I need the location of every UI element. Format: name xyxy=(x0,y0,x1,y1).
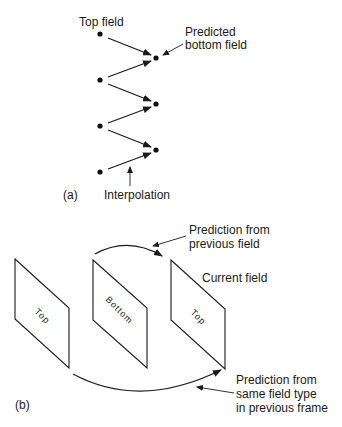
prev-frame-label-line3: in previous frame xyxy=(236,401,328,415)
current-field-label: Current field xyxy=(202,271,267,285)
figure-b: Prediction from previous field Top Botto… xyxy=(15,223,328,415)
prev-frame-arc-arrow xyxy=(73,370,221,391)
prev-field-pointer-arrow xyxy=(153,236,186,246)
bottom-field-dot xyxy=(153,55,158,60)
field-prediction-diagram: Top field Predicted bottom field (a) Int… xyxy=(0,0,342,427)
prev-field-arc-arrow xyxy=(95,245,162,256)
top-field-label: Top field xyxy=(79,15,124,29)
figure-a-label: (a) xyxy=(63,188,78,202)
interp-arrow xyxy=(108,84,151,101)
prev-frame-label-line1: Prediction from xyxy=(236,373,317,387)
predicted-pointer-arrow xyxy=(163,44,183,55)
predicted-label-line2: bottom field xyxy=(185,38,247,52)
prev-field-label-line1: Prediction from xyxy=(189,223,270,237)
top-field-dot xyxy=(97,31,102,36)
bottom-field-dot xyxy=(153,147,158,152)
figure-b-label: (b) xyxy=(15,398,30,412)
interp-arrow xyxy=(108,107,151,123)
bottom-field-dot xyxy=(153,101,158,106)
interpolation-label: Interpolation xyxy=(104,188,170,202)
prev-frame-label-line2: same field type xyxy=(236,387,317,401)
interp-arrow xyxy=(108,130,151,147)
interp-arrow xyxy=(108,61,151,77)
prev-frame-pointer-arrow xyxy=(197,387,234,393)
predicted-label-line1: Predicted xyxy=(185,25,236,39)
top-field-dot xyxy=(97,123,102,128)
top-field-dot xyxy=(97,77,102,82)
figure-a: Top field Predicted bottom field (a) Int… xyxy=(63,15,247,202)
interp-arrow xyxy=(108,38,151,55)
prev-field-label-line2: previous field xyxy=(189,237,260,251)
top-field-dot xyxy=(97,169,102,174)
interp-arrow xyxy=(108,153,151,169)
